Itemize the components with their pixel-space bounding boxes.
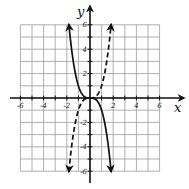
y-tick-label: 4 <box>82 46 87 54</box>
x-tick-label: 6 <box>157 102 162 110</box>
x-tick-label: -2 <box>63 102 70 110</box>
x-tick-label: -6 <box>17 102 24 110</box>
x-tick-label: 2 <box>110 102 116 110</box>
y-tick-label: 6 <box>83 21 88 29</box>
y-tick-label: 2 <box>82 70 88 78</box>
y-tick-label: -2 <box>80 119 87 127</box>
y-tick-label: -6 <box>80 168 87 176</box>
y-tick-label: -4 <box>80 143 87 151</box>
x-axis-label: x <box>174 100 182 115</box>
coordinate-plane: -6-4-2246642-2-4-6 x y <box>0 0 189 189</box>
y-axis-label: y <box>76 4 85 19</box>
x-tick-label: -4 <box>40 102 47 110</box>
x-tick-label: 4 <box>133 102 138 110</box>
